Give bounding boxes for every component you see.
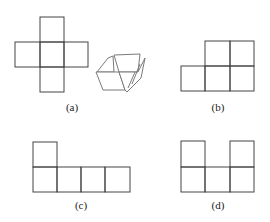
label-c: (c): [75, 199, 88, 212]
net-c: [33, 142, 130, 192]
cube-nets-diagram: (a) (b) (c) (d): [0, 0, 270, 222]
label-b: (b): [212, 101, 225, 114]
net-a-cross: [15, 17, 88, 92]
label-a: (a): [66, 101, 79, 114]
folded-box-illustration: [96, 54, 145, 92]
label-d: (d): [212, 199, 225, 212]
net-d: [181, 141, 254, 192]
net-b: [181, 41, 254, 91]
